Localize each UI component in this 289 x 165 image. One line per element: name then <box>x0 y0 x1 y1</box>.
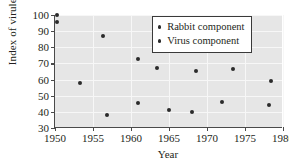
x-axis-tick-label: 1970 <box>196 133 218 144</box>
data-point <box>155 66 159 70</box>
legend-marker-icon <box>158 39 161 42</box>
y-axis-tick <box>51 96 55 97</box>
data-point <box>136 57 140 61</box>
y-axis-tick-label: 40 <box>38 106 49 117</box>
gridline-vertical <box>131 15 132 127</box>
x-axis-tick-label: 1965 <box>158 133 180 144</box>
data-point <box>269 79 273 83</box>
chart-legend: Rabbit componentVirus component <box>152 16 252 53</box>
data-point <box>267 103 271 107</box>
x-axis-tick <box>55 127 56 131</box>
data-point <box>78 81 82 85</box>
y-axis-tick <box>51 47 55 48</box>
y-axis-tick-label: 70 <box>38 58 49 69</box>
data-point <box>190 110 194 114</box>
y-axis-tick-label: 100 <box>33 10 50 21</box>
gridline-vertical <box>93 15 94 127</box>
x-axis-tick-label: 1980 <box>272 133 289 144</box>
y-axis-tick <box>51 112 55 113</box>
data-point <box>101 34 105 38</box>
x-axis-tick-label: 1975 <box>234 133 256 144</box>
figure-container: Index of virulence 304050607080901001950… <box>0 0 289 165</box>
x-axis-tick <box>169 127 170 131</box>
x-axis-title: Year <box>54 148 282 160</box>
y-axis-tick-label: 50 <box>38 90 49 101</box>
x-axis-tick-label: 1955 <box>82 133 104 144</box>
y-axis-tick-label: 60 <box>38 74 49 85</box>
x-axis-tick-label: 1950 <box>44 133 66 144</box>
legend-marker-icon <box>158 25 161 28</box>
x-axis-tick <box>245 127 246 131</box>
y-axis-tick <box>51 31 55 32</box>
x-axis-tick-label: 1960 <box>120 133 142 144</box>
y-axis-tick <box>51 80 55 81</box>
data-point <box>55 20 59 24</box>
x-axis-tick <box>207 127 208 131</box>
gridline-vertical <box>283 15 284 127</box>
data-point <box>55 13 59 17</box>
legend-item: Virus component <box>158 34 244 48</box>
y-axis-tick-label: 80 <box>38 42 49 53</box>
legend-item-label: Virus component <box>167 36 239 47</box>
x-axis-tick <box>131 127 132 131</box>
data-point <box>136 101 140 105</box>
data-point <box>220 100 224 104</box>
data-point <box>231 67 235 71</box>
y-axis-title: Index of virulence <box>6 0 20 79</box>
x-axis-tick <box>93 127 94 131</box>
data-point <box>194 69 198 73</box>
data-point <box>105 113 109 117</box>
y-axis-tick-label: 90 <box>38 26 49 37</box>
legend-item-label: Rabbit component <box>167 22 244 33</box>
x-axis-tick <box>283 127 284 131</box>
y-axis-tick <box>51 63 55 64</box>
legend-item: Rabbit component <box>158 20 244 34</box>
